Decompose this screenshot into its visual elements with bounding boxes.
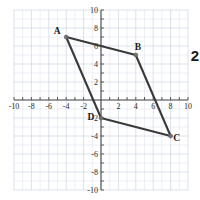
coordinate-plane-figure: -10-8-6-4-2246810108642-2-4-6-8-10 ABCD … xyxy=(0,0,200,200)
y-axis-tick-label: 2 xyxy=(94,78,98,87)
vertex-point xyxy=(64,35,68,39)
x-axis-tick-label: -10 xyxy=(9,102,20,111)
vertex-point xyxy=(169,134,173,138)
y-axis-tick-label: -4 xyxy=(91,132,98,141)
x-axis-tick-label: 4 xyxy=(134,102,138,111)
vertex-label-d: D xyxy=(88,112,95,122)
y-axis-tick-label: 4 xyxy=(94,60,98,69)
vertex-point xyxy=(134,53,138,57)
y-axis-tick-label: -8 xyxy=(91,168,98,177)
x-axis-tick-label: -6 xyxy=(45,102,52,111)
x-axis-tick-label: -4 xyxy=(63,102,70,111)
y-axis-tick-label: -10 xyxy=(87,186,98,195)
vertex-label-a: A xyxy=(54,26,61,36)
y-axis-tick-label: -6 xyxy=(91,150,98,159)
x-axis-tick-label: 8 xyxy=(169,102,173,111)
y-axis-tick-label: 10 xyxy=(90,6,98,15)
side-annotation-number: 2 xyxy=(191,48,199,63)
vertex-point xyxy=(99,116,103,120)
x-axis-tick-label: -8 xyxy=(28,102,35,111)
vertex-label-c: C xyxy=(173,133,180,143)
x-axis-tick-label: 2 xyxy=(116,102,120,111)
y-axis-tick-label: 8 xyxy=(94,24,98,33)
vertex-label-b: B xyxy=(135,42,142,52)
x-axis-tick-label: 10 xyxy=(184,102,192,111)
x-axis-tick-label: 6 xyxy=(151,102,155,111)
x-axis-tick-label: -2 xyxy=(80,102,87,111)
coordinate-plane-svg: -10-8-6-4-2246810108642-2-4-6-8-10 ABCD xyxy=(0,0,200,200)
